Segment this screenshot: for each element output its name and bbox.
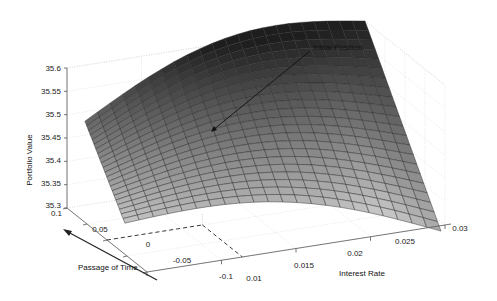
time-axis-label: Passage of Time	[78, 263, 138, 272]
surface-patch	[275, 180, 292, 188]
surface-patch	[223, 196, 240, 204]
surface-patch	[235, 188, 252, 196]
surface-patch	[258, 172, 275, 180]
surface-patch	[256, 165, 273, 173]
z-axis-ticks: 35.6 35.55 35.5 35.45 35.4 35.35 35.3	[41, 64, 62, 210]
surface-patch	[244, 173, 261, 181]
z-tick: 35.4	[45, 156, 61, 165]
z-tick: 35.55	[41, 87, 62, 96]
surface-patch	[266, 195, 283, 203]
surface-patch	[252, 195, 269, 203]
surface-patch	[263, 187, 280, 195]
rate-axis-label: Interest Rate	[339, 269, 385, 278]
rate-tick: 0.025	[395, 237, 416, 246]
time-tick: 0	[146, 240, 151, 249]
z-tick: 35.6	[45, 64, 61, 73]
time-tick: -0.1	[219, 272, 233, 281]
rate-tick: 0.015	[294, 261, 315, 270]
z-tick: 35.35	[41, 179, 62, 188]
surface-patch	[261, 180, 278, 188]
z-axis-label: Portfolio Value	[25, 134, 34, 186]
rate-tick: 0.01	[246, 274, 262, 283]
z-tick: 35.5	[45, 110, 61, 119]
time-arrow	[63, 229, 157, 280]
annotation-text: Initial Position	[313, 43, 362, 52]
surface-patch	[237, 195, 254, 203]
time-tick: 0.05	[92, 225, 108, 234]
surface-patch	[249, 187, 266, 195]
rate-tick: 0.02	[347, 249, 363, 258]
surface-plot: 35.6 35.55 35.5 35.45 35.4 35.35 35.3 Po…	[0, 0, 497, 301]
rate-tick: 0.03	[452, 224, 468, 233]
surface-mesh	[85, 21, 441, 231]
z-tick: 35.45	[41, 133, 62, 142]
time-tick: -0.05	[173, 256, 192, 265]
arrow-head-icon	[63, 229, 72, 236]
surface-patch	[253, 157, 270, 165]
surface-patch	[247, 180, 264, 188]
time-tick: 0.1	[51, 209, 63, 218]
surface-patch	[251, 150, 268, 159]
